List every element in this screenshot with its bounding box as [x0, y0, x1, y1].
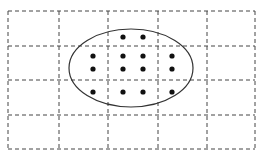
dashed-grid	[8, 11, 255, 149]
dot	[140, 66, 145, 71]
dot	[120, 53, 125, 58]
dot	[140, 34, 145, 39]
dot	[90, 66, 95, 71]
dot	[120, 66, 125, 71]
dot	[169, 89, 174, 94]
dot	[120, 34, 125, 39]
dot-cluster	[90, 34, 174, 94]
dot	[169, 66, 174, 71]
dot	[90, 53, 95, 58]
dot	[90, 89, 95, 94]
dot	[120, 89, 125, 94]
dot	[140, 89, 145, 94]
diagram-canvas	[0, 0, 259, 160]
dot	[140, 53, 145, 58]
dot	[169, 53, 174, 58]
